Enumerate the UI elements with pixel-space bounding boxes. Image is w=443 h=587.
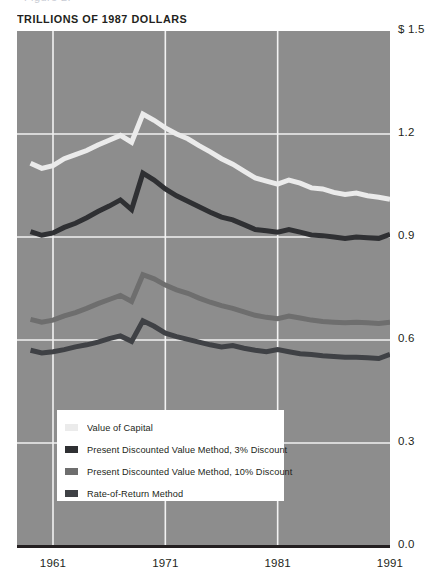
legend-item: Rate-of-Return Method: [65, 487, 186, 499]
chart-legend: Value of CapitalPresent Discounted Value…: [57, 410, 284, 501]
legend-color-swatch: [65, 490, 78, 497]
y-axis-tick-label: 0.3: [398, 435, 415, 447]
legend-color-swatch: [65, 446, 78, 453]
top-cutoff-text: Figure 2.: [0, 0, 443, 7]
series-line-1: [31, 173, 390, 238]
series-line-0: [31, 114, 390, 199]
legend-item: Present Discounted Value Method, 10% Dis…: [65, 465, 299, 477]
legend-item-label: Value of Capital: [87, 422, 153, 433]
x-axis-tick-label: 1961: [40, 557, 66, 569]
y-axis-tick-label: 0.0: [398, 538, 415, 550]
legend-item-label: Present Discounted Value Method, 3% Disc…: [87, 444, 287, 455]
x-axis-tick-label: 1991: [377, 557, 403, 569]
legend-item-label: Rate-of-Return Method: [87, 488, 183, 499]
legend-item: Value of Capital: [65, 421, 155, 433]
legend-color-swatch: [65, 424, 78, 431]
chart-page: Figure 2. TRILLIONS OF 1987 DOLLARS $ 1.…: [0, 0, 443, 587]
y-axis-tick-label: $ 1.5: [398, 23, 425, 35]
x-axis-line: [17, 545, 390, 548]
y-axis-tick-label: 0.9: [398, 229, 415, 241]
x-axis-tick-label: 1971: [152, 557, 178, 569]
legend-color-swatch: [65, 468, 78, 475]
legend-item: Present Discounted Value Method, 3% Disc…: [65, 443, 293, 455]
legend-item-label: Present Discounted Value Method, 10% Dis…: [87, 466, 293, 477]
chart-title: TRILLIONS OF 1987 DOLLARS: [17, 13, 187, 25]
series-line-2: [31, 275, 390, 324]
y-axis-tick-label: 1.2: [398, 126, 415, 138]
x-axis-tick-label: 1981: [264, 557, 290, 569]
top-cutoff-label: Figure 2.: [24, 0, 71, 3]
y-axis-tick-label: 0.6: [398, 332, 415, 344]
